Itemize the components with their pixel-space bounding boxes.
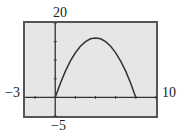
y-min-label: −5 [51,119,66,133]
graph-window [0,0,183,135]
x-max-label: 10 [162,86,176,100]
y-max-label: 20 [53,6,67,20]
x-min-label: −3 [5,86,20,100]
plot-frame [24,22,157,117]
